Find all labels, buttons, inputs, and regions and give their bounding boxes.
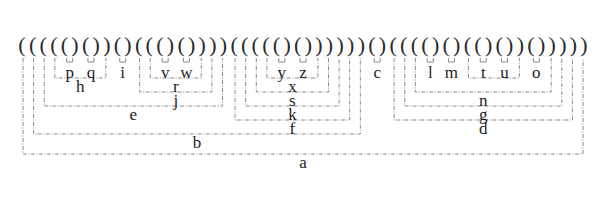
close-paren: ) — [559, 32, 566, 57]
open-paren: ( — [496, 32, 503, 57]
close-paren: ) — [167, 32, 174, 57]
close-paren: ) — [570, 32, 577, 57]
open-paren: ( — [40, 32, 47, 57]
close-paren: ) — [453, 32, 460, 57]
open-paren: ( — [411, 32, 418, 57]
close-paren: ) — [283, 32, 290, 57]
paren-string: ((((()())()((()())))((((()())))))()(((()… — [18, 32, 587, 57]
open-paren: ( — [146, 32, 153, 57]
leaf-label-t: t — [481, 63, 486, 82]
open-paren: ( — [241, 32, 248, 57]
close-paren: ) — [485, 32, 492, 57]
open-paren: ( — [177, 32, 184, 57]
close-paren: ) — [506, 32, 513, 57]
open-paren: ( — [464, 32, 471, 57]
leaf-tick — [501, 58, 507, 62]
tree-bracket-diagram: ((((()())()((()())))((((()())))))()(((()… — [0, 0, 599, 216]
node-label-h: h — [76, 77, 85, 96]
close-paren: ) — [315, 32, 322, 57]
close-paren: ) — [432, 32, 439, 57]
leaf-tick — [67, 58, 73, 62]
bracket-h — [55, 58, 106, 78]
open-paren: ( — [18, 32, 25, 57]
open-paren: ( — [474, 32, 481, 57]
close-paren: ) — [517, 32, 524, 57]
leaf-tick — [374, 58, 380, 62]
open-paren: ( — [82, 32, 89, 57]
open-paren: ( — [230, 32, 237, 57]
open-paren: ( — [442, 32, 449, 57]
bracket-t_u_group — [468, 58, 519, 78]
bracket-b — [34, 58, 361, 134]
open-paren: ( — [61, 32, 68, 57]
close-paren: ) — [538, 32, 545, 57]
close-paren: ) — [305, 32, 312, 57]
close-paren: ) — [549, 32, 556, 57]
close-paren: ) — [379, 32, 386, 57]
open-paren: ( — [50, 32, 57, 57]
leaf-label-c: c — [373, 63, 381, 82]
leaf-label-p: p — [65, 63, 74, 82]
open-paren: ( — [156, 32, 163, 57]
open-paren: ( — [294, 32, 301, 57]
close-paren: ) — [358, 32, 365, 57]
close-paren: ) — [188, 32, 195, 57]
open-paren: ( — [262, 32, 269, 57]
node-label-f: f — [290, 119, 296, 138]
open-paren: ( — [389, 32, 396, 57]
close-paren: ) — [336, 32, 343, 57]
close-paren: ) — [347, 32, 354, 57]
open-paren: ( — [421, 32, 428, 57]
leaf-label-z: z — [299, 63, 307, 82]
node-label-a: a — [299, 153, 307, 172]
leaf-label-m: m — [445, 63, 458, 82]
leaf-tick — [448, 58, 454, 62]
leaf-tick — [120, 58, 126, 62]
node-label-j: j — [172, 91, 178, 110]
leaf-label-i: i — [120, 63, 125, 82]
leaf-tick — [279, 58, 285, 62]
leaf-label-y: y — [278, 63, 287, 82]
open-paren: ( — [273, 32, 280, 57]
leaf-label-q: q — [87, 63, 96, 82]
open-paren: ( — [29, 32, 36, 57]
leaf-tick — [427, 58, 433, 62]
leaf-label-o: o — [532, 63, 541, 82]
close-paren: ) — [124, 32, 131, 57]
leaf-tick — [480, 58, 486, 62]
leaf-tick — [300, 58, 306, 62]
node-label-e: e — [130, 105, 138, 124]
close-paren: ) — [93, 32, 100, 57]
node-labels: pqhivwrjeyzxskfbclmtuongda — [65, 63, 540, 172]
close-paren: ) — [220, 32, 227, 57]
close-paren: ) — [580, 32, 587, 57]
close-paren: ) — [209, 32, 216, 57]
leaf-label-l: l — [428, 63, 433, 82]
bracket-r — [150, 58, 201, 78]
close-paren: ) — [199, 32, 206, 57]
leaf-tick — [162, 58, 168, 62]
bracket-x — [267, 58, 318, 78]
leaf-label-u: u — [500, 63, 509, 82]
close-paren: ) — [103, 32, 110, 57]
leaf-tick — [183, 58, 189, 62]
close-paren: ) — [326, 32, 333, 57]
leaf-tick — [88, 58, 94, 62]
open-paren: ( — [114, 32, 121, 57]
open-paren: ( — [252, 32, 259, 57]
node-label-d: d — [479, 119, 488, 138]
open-paren: ( — [400, 32, 407, 57]
leaf-label-w: w — [180, 63, 193, 82]
open-paren: ( — [527, 32, 534, 57]
open-paren: ( — [135, 32, 142, 57]
close-paren: ) — [71, 32, 78, 57]
node-label-b: b — [193, 133, 202, 152]
leaf-tick — [533, 58, 539, 62]
leaf-label-v: v — [161, 63, 170, 82]
open-paren: ( — [368, 32, 375, 57]
